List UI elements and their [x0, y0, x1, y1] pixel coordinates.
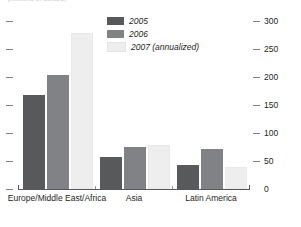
- bar: [71, 33, 93, 189]
- bar: [23, 95, 45, 189]
- bar: [148, 145, 170, 189]
- bar: [225, 167, 247, 189]
- legend-swatch-2006: [107, 30, 124, 38]
- bar: [100, 157, 122, 189]
- bar: [201, 149, 223, 189]
- chart-legend: 2005 2006 2007 (annualized): [107, 15, 227, 54]
- x-axis-separator: [172, 186, 173, 189]
- bar: [177, 165, 199, 189]
- legend-label-2007: 2007 (annualized): [131, 43, 199, 52]
- x-axis-category-label: Latin America: [141, 194, 281, 203]
- legend-label-2006: 2006: [129, 30, 148, 39]
- legend-swatch-2007: [107, 42, 126, 52]
- bar-chart: (millions of dollars) 050100150200250300…: [0, 0, 301, 227]
- legend-item: 2006: [107, 28, 227, 40]
- legend-label-2005: 2005: [129, 17, 148, 26]
- x-axis-line: [18, 189, 250, 190]
- legend-item: 2005: [107, 15, 227, 27]
- x-axis-separator: [95, 186, 96, 189]
- x-axis-right-cap: [249, 185, 250, 189]
- bar: [124, 147, 146, 189]
- legend-item: 2007 (annualized): [107, 41, 227, 53]
- bar: [47, 75, 69, 189]
- x-axis-left-cap: [18, 185, 19, 189]
- legend-swatch-2005: [107, 17, 124, 25]
- y-axis-tick-left: [6, 189, 13, 190]
